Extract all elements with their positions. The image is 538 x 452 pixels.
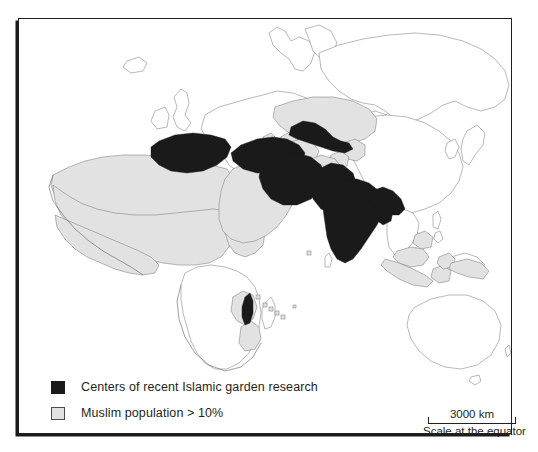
map-scalebar: 3000 km Scale at the equator (423, 411, 521, 437)
legend-item-muslim-population: Muslim population > 10% (51, 400, 371, 426)
legend-item-research-centers: Centers of recent Islamic garden researc… (51, 374, 371, 400)
scalebar-caption: Scale at the equator (423, 425, 521, 437)
map-figure: .land { fill:#ffffff; stroke:#7d7d7d; st… (0, 0, 538, 452)
map-legend: Centers of recent Islamic garden researc… (51, 374, 371, 426)
legend-label-research-centers: Centers of recent Islamic garden researc… (81, 380, 318, 394)
legend-label-muslim-population: Muslim population > 10% (81, 406, 223, 420)
map-frame: .land { fill:#ffffff; stroke:#7d7d7d; st… (18, 18, 512, 434)
scalebar-graphic: 3000 km (428, 411, 516, 424)
scalebar-line (428, 423, 516, 424)
scalebar-value: 3000 km (428, 408, 516, 420)
world-map-svg: .land { fill:#ffffff; stroke:#7d7d7d; st… (19, 19, 511, 433)
legend-swatch-gray (51, 407, 65, 420)
legend-swatch-black (51, 381, 65, 394)
